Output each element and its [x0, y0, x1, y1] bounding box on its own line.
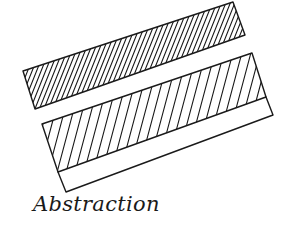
- caption-label: Abstraction: [33, 192, 160, 216]
- sketch-canvas: Abstraction: [0, 0, 291, 225]
